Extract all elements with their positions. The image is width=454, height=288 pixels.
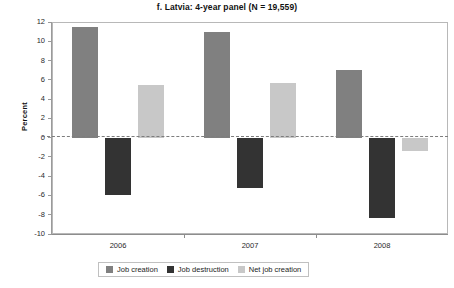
legend-swatch-icon	[238, 266, 245, 273]
bar	[204, 32, 230, 138]
y-tick-label: 4	[41, 94, 45, 103]
bar	[138, 85, 164, 138]
y-tick-label: 8	[41, 56, 45, 65]
y-axis-line	[51, 22, 52, 234]
bar	[369, 138, 395, 218]
y-tick-label: -10	[34, 229, 45, 238]
x-tick-mark	[184, 234, 185, 238]
legend-label: Job creation	[117, 265, 158, 274]
y-tick-label: 0	[41, 133, 45, 142]
y-tick-mark	[48, 137, 52, 138]
y-axis-tick: -6	[0, 195, 52, 196]
y-axis-tick: 2	[0, 118, 52, 119]
bar	[270, 83, 296, 138]
y-axis-tick: 10	[0, 41, 52, 42]
y-tick-mark	[48, 176, 52, 177]
y-tick-mark	[48, 79, 52, 80]
y-tick-label: 12	[37, 17, 45, 26]
y-tick-label: 10	[37, 36, 45, 45]
y-tick-mark	[48, 156, 52, 157]
legend-label: Job destruction	[178, 265, 229, 274]
x-tick-mark	[316, 234, 317, 238]
legend-item: Job destruction	[167, 265, 229, 274]
y-tick-mark	[48, 195, 52, 196]
x-tick-label: 2006	[88, 241, 148, 250]
y-axis-tick: -10	[0, 234, 52, 235]
bar	[237, 138, 263, 188]
y-tick-mark	[48, 22, 52, 23]
chart-figure: f. Latvia: 4-year panel (N = 19,559) Per…	[0, 0, 454, 288]
y-tick-label: 6	[41, 75, 45, 84]
y-tick-label: -6	[38, 190, 45, 199]
zero-reference-line	[42, 136, 448, 137]
y-axis-tick: 4	[0, 99, 52, 100]
y-axis-tick: 0	[0, 138, 52, 139]
y-axis-tick: 12	[0, 22, 52, 23]
y-axis-tick: 8	[0, 61, 52, 62]
y-tick-mark	[48, 60, 52, 61]
legend-item: Net job creation	[238, 265, 302, 274]
y-tick-mark	[48, 99, 52, 100]
x-tick-label: 2007	[220, 241, 280, 250]
y-axis-tick: -4	[0, 176, 52, 177]
legend-label: Net job creation	[249, 265, 302, 274]
y-axis-tick: -2	[0, 157, 52, 158]
y-tick-mark	[48, 118, 52, 119]
y-tick-label: -2	[38, 152, 45, 161]
bar	[402, 138, 428, 151]
y-tick-label: -8	[38, 210, 45, 219]
y-tick-mark	[48, 41, 52, 42]
bar	[105, 138, 131, 196]
y-tick-mark	[48, 214, 52, 215]
chart-legend: Job creationJob destructionNet job creat…	[98, 262, 309, 277]
bar	[336, 70, 362, 137]
y-tick-label: -4	[38, 171, 45, 180]
legend-swatch-icon	[167, 266, 174, 273]
x-tick-label: 2008	[352, 241, 412, 250]
legend-swatch-icon	[106, 266, 113, 273]
bar	[72, 27, 98, 138]
chart-title: f. Latvia: 4-year panel (N = 19,559)	[0, 2, 454, 13]
y-tick-label: 2	[41, 113, 45, 122]
x-axis-line	[52, 234, 448, 235]
y-axis-tick: 6	[0, 80, 52, 81]
legend-item: Job creation	[106, 265, 158, 274]
y-axis-tick: -8	[0, 215, 52, 216]
